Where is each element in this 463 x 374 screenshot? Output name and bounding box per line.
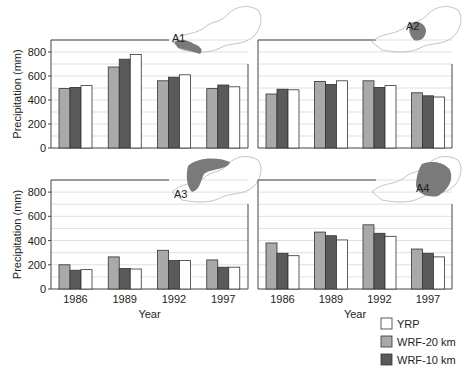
bar-wrf-10-km-1986 (277, 89, 288, 148)
bar-wrf-20-km-1997 (207, 89, 218, 148)
bar-wrf-20-km-1986 (59, 265, 70, 289)
bar-yrp-1986 (288, 256, 299, 289)
y-tick-label: 800 (28, 46, 46, 58)
panel-label: A1 (172, 32, 185, 44)
bar-wrf-20-km-1997 (207, 260, 218, 289)
basin-map-inset-a2: A2 (372, 7, 461, 52)
legend: YRPWRF-20 kmWRF-10 km (381, 318, 456, 366)
bar-wrf-20-km-1997 (412, 93, 423, 148)
x-tick-label: 1992 (367, 293, 391, 305)
y-axis-title: Precipitation (mm) (11, 49, 23, 138)
x-axis-title: Year (138, 308, 161, 320)
x-tick-label: 1997 (211, 293, 235, 305)
bar-yrp-1997 (229, 267, 240, 289)
bar-wrf-20-km-1997 (412, 249, 423, 289)
figure-canvas: 0200400600800Precipitation (mm)A1A202004… (0, 0, 463, 374)
bar-wrf-10-km-1989 (326, 236, 337, 289)
bar-wrf-20-km-1992 (363, 225, 374, 289)
bar-wrf-10-km-1997 (218, 85, 229, 148)
y-tick-label: 600 (28, 210, 46, 222)
bar-yrp-1997 (229, 87, 240, 148)
y-tick-label: 0 (40, 142, 46, 154)
bar-wrf-20-km-1986 (266, 94, 277, 148)
legend-label: YRP (397, 318, 420, 330)
bar-wrf-20-km-1989 (315, 81, 326, 148)
chart-panel-a1: 0200400600800Precipitation (mm)A1 (11, 7, 261, 154)
bar-yrp-1986 (288, 90, 299, 148)
x-tick-label: 1989 (113, 293, 137, 305)
basin-map-inset-a3: A3 (172, 157, 261, 202)
bar-wrf-10-km-1989 (326, 84, 337, 148)
bar-wrf-10-km-1986 (70, 87, 81, 148)
bar-wrf-10-km-1992 (374, 87, 385, 148)
x-tick-label: 1986 (270, 293, 294, 305)
bar-yrp-1992 (180, 261, 191, 289)
y-tick-label: 600 (28, 70, 46, 82)
y-tick-label: 800 (28, 186, 46, 198)
bar-wrf-10-km-1997 (423, 96, 434, 148)
y-tick-label: 400 (28, 235, 46, 247)
y-axis-title: Precipitation (mm) (11, 190, 23, 279)
bar-wrf-10-km-1997 (218, 267, 229, 289)
bar-yrp-1989 (337, 81, 348, 148)
bar-wrf-20-km-1986 (266, 243, 277, 289)
legend-swatch-yrp (381, 318, 392, 329)
bar-wrf-20-km-1992 (363, 81, 374, 148)
legend-item-wrf20: WRF-20 km (381, 336, 456, 348)
legend-label: WRF-10 km (397, 354, 456, 366)
legend-item-wrf10: WRF-10 km (381, 354, 456, 366)
legend-label: WRF-20 km (397, 336, 456, 348)
bar-wrf-10-km-1986 (70, 270, 81, 289)
bar-yrp-1997 (434, 257, 445, 289)
panel-label: A2 (406, 20, 419, 32)
bar-yrp-1992 (385, 86, 396, 148)
y-tick-label: 200 (28, 259, 46, 271)
bar-yrp-1989 (337, 240, 348, 289)
x-tick-label: 1992 (162, 293, 186, 305)
chart-panel-a2: A2 (258, 7, 461, 148)
chart-panel-a3: 0200400600800Precipitation (mm)198619891… (11, 157, 261, 320)
panel-label: A4 (416, 182, 429, 194)
x-axis-title: Year (344, 308, 367, 320)
bar-yrp-1986 (81, 270, 92, 289)
precipitation-comparison-figure: 0200400600800Precipitation (mm)A1A202004… (0, 0, 463, 374)
legend-item-yrp: YRP (381, 318, 420, 330)
legend-swatch-wrf20 (381, 336, 392, 347)
x-tick-label: 1986 (63, 293, 87, 305)
bar-wrf-20-km-1986 (59, 89, 70, 148)
bar-wrf-10-km-1989 (119, 268, 130, 289)
x-tick-label: 1997 (416, 293, 440, 305)
bar-wrf-10-km-1989 (119, 59, 130, 148)
bar-wrf-20-km-1992 (158, 81, 169, 148)
bar-wrf-10-km-1992 (169, 77, 180, 148)
basin-map-inset-a1: A1 (172, 7, 261, 54)
legend-swatch-wrf10 (381, 354, 392, 365)
bar-yrp-1997 (434, 97, 445, 148)
bar-yrp-1989 (130, 269, 141, 289)
y-tick-label: 0 (40, 283, 46, 295)
panel-label: A3 (174, 188, 187, 200)
bar-wrf-10-km-1992 (374, 233, 385, 289)
bar-yrp-1986 (81, 86, 92, 148)
bar-wrf-10-km-1997 (423, 253, 434, 289)
bar-wrf-20-km-1989 (108, 67, 119, 148)
y-tick-label: 400 (28, 94, 46, 106)
bar-yrp-1992 (385, 236, 396, 289)
bar-wrf-10-km-1992 (169, 261, 180, 289)
x-tick-label: 1989 (319, 293, 343, 305)
bar-wrf-20-km-1992 (158, 250, 169, 289)
bar-yrp-1989 (130, 54, 141, 148)
y-tick-label: 200 (28, 118, 46, 130)
bar-wrf-20-km-1989 (315, 232, 326, 289)
bar-wrf-20-km-1989 (108, 257, 119, 289)
basin-map-inset-a4: A4 (372, 157, 461, 202)
bar-wrf-10-km-1986 (277, 253, 288, 289)
bar-yrp-1992 (180, 75, 191, 148)
chart-panel-a4: 1986198919921997YearA4 (258, 157, 461, 320)
